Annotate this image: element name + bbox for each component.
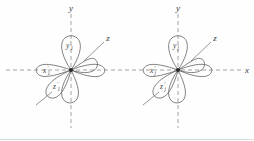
axis-label-z-right: z — [212, 33, 217, 43]
axis-label-y-left: y — [68, 3, 73, 13]
axis-label-y-right: y — [175, 3, 180, 13]
lobe-left-right — [143, 64, 178, 76]
orbital-label-z-left-prime: ′ — [57, 81, 58, 87]
global-axes — [6, 14, 243, 128]
orbital-label-z-left-sub: 1 — [57, 86, 60, 92]
orbital-label-x-right-prime: ′ — [154, 65, 155, 71]
orbital-label-y-left-base: y — [65, 41, 70, 50]
orbital-figure-canvas: y z y 1 ′ x 1 ′ z 1 ′ — [0, 0, 254, 141]
orbital-label-x-right-base: x — [149, 66, 154, 75]
orbital-label-y-right-base: y — [172, 41, 177, 50]
orbital-label-y-right-sub: j — [177, 45, 180, 51]
z-axis-line-right — [191, 42, 211, 61]
orbital-label-z-right: z j ′ — [159, 81, 166, 93]
orbital-diagram-left: y z y 1 ′ x 1 ′ z 1 ′ — [36, 3, 110, 105]
nucleus-dot-right — [176, 68, 180, 72]
orbital-diagram-right: y z x y j ′ x j ′ z j ′ — [143, 3, 249, 105]
orbital-label-y-right-prime: ′ — [177, 40, 178, 46]
orbital-label-x-right-sub: j — [154, 70, 157, 76]
orbital-label-y-left-sub: 1 — [71, 45, 74, 51]
orbital-label-x-left-sub: 1 — [48, 70, 51, 76]
orbital-label-x-left: x 1 ′ — [42, 65, 51, 77]
axis-label-x-right: x — [244, 65, 249, 75]
orbital-label-z-right-sub: j — [163, 86, 166, 92]
nucleus-dot-left — [69, 68, 73, 72]
orbital-label-x-left-base: x — [42, 66, 47, 75]
orbital-label-z-left: z 1 ′ — [52, 81, 60, 93]
orbital-label-z-left-base: z — [52, 82, 56, 91]
lobe-left-left — [36, 64, 71, 76]
orbital-label-x-right: x j ′ — [149, 65, 157, 77]
orbital-label-y-right: y j ′ — [172, 40, 180, 52]
orbital-label-x-left-prime: ′ — [47, 65, 48, 71]
axis-label-z-left: z — [105, 33, 110, 43]
z-axis-lower-tick-right — [143, 92, 159, 105]
orbital-label-y-left-prime: ′ — [70, 40, 71, 46]
orbital-label-y-left: y 1 ′ — [65, 40, 74, 52]
orbital-label-z-right-prime: ′ — [164, 81, 165, 87]
z-axis-line-left — [84, 42, 104, 61]
z-axis-lower-tick-left — [36, 92, 52, 105]
orbital-label-z-right-base: z — [159, 82, 163, 91]
